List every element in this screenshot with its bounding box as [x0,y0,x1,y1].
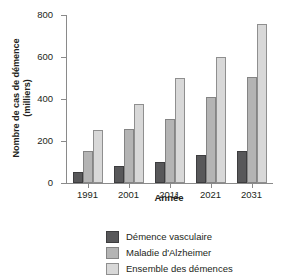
legend-item: Maladie d'Alzheimer [106,245,233,260]
plot-area: 0200400600800 19912001201120212031 [66,15,272,183]
bar [216,57,226,183]
bar-group: 2011 [155,15,185,183]
y-axis-tick-label: 200 [37,135,53,146]
bar [83,151,93,183]
bar-group: 2031 [237,15,267,183]
bar [237,151,247,183]
bar [196,155,206,183]
y-axis-tick-label: 400 [37,93,53,104]
x-axis-tick [88,183,89,188]
bar-groups: 19912001201120212031 [67,15,272,183]
legend-item: Ensemble des démences [106,261,233,276]
legend-label: Démence vasculaire [126,231,212,242]
bar [155,162,165,183]
bar-group: 2021 [196,15,226,183]
legend-swatch [106,231,119,243]
x-axis-tick [211,183,212,188]
bar [165,119,175,183]
bar-group: 2001 [114,15,144,183]
y-axis-tick-label: 800 [37,9,53,20]
bar [247,77,257,183]
y-axis-tick-label: 600 [37,51,53,62]
bar [114,166,124,183]
legend-label: Maladie d'Alzheimer [126,247,211,258]
bar [175,78,185,183]
x-axis-tick [252,183,253,188]
y-axis-title-line-1: Nombre de cas de démence [11,38,22,157]
legend-swatch [106,247,119,259]
y-axis-title: Nombre de cas de démence (milliers) [9,5,35,191]
x-axis-tick [170,183,171,188]
y-axis-tick-label: 0 [48,177,53,188]
x-axis-tick [129,183,130,188]
legend-label: Ensemble des démences [126,263,233,274]
bar-chart-figure: Nombre de cas de démence (milliers) 0200… [0,0,283,279]
x-axis-title: Année [66,192,272,203]
bar [93,130,103,183]
chart-legend: Démence vasculaireMaladie d'AlzheimerEns… [106,229,233,276]
bar-group: 1991 [73,15,103,183]
x-axis-line [61,183,273,184]
y-axis-title-line-2: (milliers) [22,79,33,116]
bar [73,172,83,183]
bar [124,129,134,183]
y-axis-tick: 0 [61,183,67,184]
bar [134,104,144,183]
legend-item: Démence vasculaire [106,229,233,244]
bar [257,24,267,183]
bar [206,97,216,183]
legend-swatch [106,263,119,275]
